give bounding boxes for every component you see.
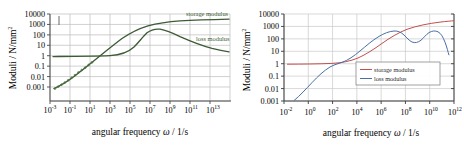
left-ytick-4: 1 [41,52,45,61]
left-ytick-0: 10000 [25,10,45,19]
right-xtick-0: 10-2 [280,106,293,117]
left-xtick-6: 109 [165,104,176,115]
right-x-tick-labels: 10-2 100 102 104 106 108 1010 [280,106,463,117]
right-ytick-4: 1 [275,60,279,69]
figure-pair: 10000 1000 100 10 1 0.1 0.01 0.001 10-3 … [0,0,464,147]
left-xtick-4: 105 [125,104,136,115]
right-ytick-1: 1000 [263,22,279,31]
left-xtick-2: 101 [85,104,96,115]
left-y-axis-title: Moduli / N/mm2 [7,27,18,90]
right-xtick-4: 106 [376,106,387,117]
left-xtick-0: 10-3 [44,104,57,115]
svg-text:Moduli / N/mm2: Moduli / N/mm2 [241,29,252,92]
left-xtick-8: 1013 [206,104,220,115]
left-xtick-3: 103 [105,104,116,115]
svg-text:10-3: 10-3 [44,104,57,115]
right-axis-spines [284,14,454,101]
left-ytick-6: 0.01 [31,73,45,82]
svg-text:100: 100 [305,106,316,117]
right-xtick-2: 102 [328,106,339,117]
svg-text:101: 101 [85,104,96,115]
left-panel: 10000 1000 100 10 1 0.1 0.01 0.001 10-3 … [0,0,232,147]
left-xtick-7: 1011 [184,104,198,115]
svg-text:1012: 1012 [448,106,462,117]
right-xtick-7: 1012 [448,106,462,117]
left-ytick-3: 10 [37,41,45,50]
legend-label-storage: storage modulus [374,66,415,73]
left-gridlines [50,14,230,101]
storage-modulus-label: storage modulus [186,10,229,17]
svg-text:1010: 1010 [424,106,438,117]
right-ytick-2: 100 [267,35,279,44]
svg-text:106: 106 [376,106,387,117]
left-x-tick-labels: 10-3 10-1 101 103 105 107 109 [44,104,221,115]
left-axis-spines [50,14,231,101]
left-ytick-5: 0.1 [35,62,45,71]
left-ytick-1: 1000 [29,20,45,29]
left-ytick-2: 100 [33,31,45,40]
svg-text:Moduli / N/mm2: Moduli / N/mm2 [7,27,18,90]
left-storage-curve [54,19,229,88]
legend-box[interactable]: storage modulus loss modulus [356,62,440,85]
svg-text:10-2: 10-2 [280,106,293,117]
svg-text:102: 102 [328,106,339,117]
svg-text:10-1: 10-1 [64,104,77,115]
right-chart: 10000 1000 100 10 1 0.1 0.01 0.001 10-2 … [232,0,464,147]
left-x-axis-title: angular frequency ω / 1/s [92,127,189,137]
left-ytick-7: 0.001 [27,83,45,92]
right-xtick-6: 1010 [424,106,438,117]
svg-text:107: 107 [145,104,156,115]
svg-text:109: 109 [165,104,176,115]
right-ytick-6: 0.01 [265,85,279,94]
left-xtick-1: 10-1 [64,104,77,115]
right-panel: 10000 1000 100 10 1 0.1 0.01 0.001 10-2 … [232,0,464,147]
svg-text:108: 108 [401,106,412,117]
left-loss-curve [53,29,229,57]
right-ytick-3: 10 [271,47,279,56]
right-x-axis-title: angular frequency ω / 1/s [323,128,420,138]
left-chart: 10000 1000 100 10 1 0.1 0.01 0.001 10-3 … [0,0,232,147]
right-xtick-3: 104 [352,106,363,117]
left-curves [53,19,229,88]
svg-text:104: 104 [352,106,363,117]
right-gridlines [284,14,454,101]
right-ytick-0: 10000 [259,10,279,19]
right-xtick-1: 100 [305,106,316,117]
svg-text:1011: 1011 [184,104,198,115]
svg-text:105: 105 [125,104,136,115]
legend-label-loss: loss modulus [374,75,407,82]
right-y-tick-labels: 10000 1000 100 10 1 0.1 0.01 0.001 [259,10,279,106]
loss-modulus-label: loss modulus [196,35,230,42]
right-ytick-5: 0.1 [269,72,279,81]
right-y-axis-title: Moduli / N/mm2 [241,29,252,92]
left-xtick-5: 107 [145,104,156,115]
right-ytick-7: 0.001 [261,97,279,106]
svg-text:1013: 1013 [206,104,220,115]
left-y-tick-labels: 10000 1000 100 10 1 0.1 0.01 0.001 [25,10,45,92]
svg-text:103: 103 [105,104,116,115]
right-xtick-5: 108 [401,106,412,117]
